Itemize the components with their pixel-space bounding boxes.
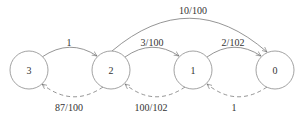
node-label: 3 [27,65,32,76]
edge-3-to-2 [42,47,97,57]
node-1: 1 [174,51,212,89]
edge-label-2-1: 3/100 [141,37,164,48]
edge-label-1-0: 2/102 [222,37,245,48]
edge-2-to-1 [125,47,179,57]
edge-2-to-3 [42,84,103,97]
state-diagram: 3 2 1 0 1 3/100 2/102 10/100 87/100 100/… [0,0,303,116]
node-label: 0 [273,65,278,76]
edge-label-2-0: 10/100 [179,5,207,16]
edge-1-to-0 [207,47,261,57]
edge-label-2-3: 87/100 [55,102,83,113]
node-0: 0 [256,51,294,89]
edge-1-to-2 [125,84,185,97]
edge-label-1-2: 100/102 [135,102,168,113]
edge-label-0-1: 1 [232,102,237,113]
edge-0-to-1 [207,84,267,97]
edge-label-3-2: 1 [67,37,72,48]
node-3: 3 [10,51,48,89]
node-label: 2 [109,65,114,76]
node-2: 2 [92,51,130,89]
node-label: 1 [191,65,196,76]
